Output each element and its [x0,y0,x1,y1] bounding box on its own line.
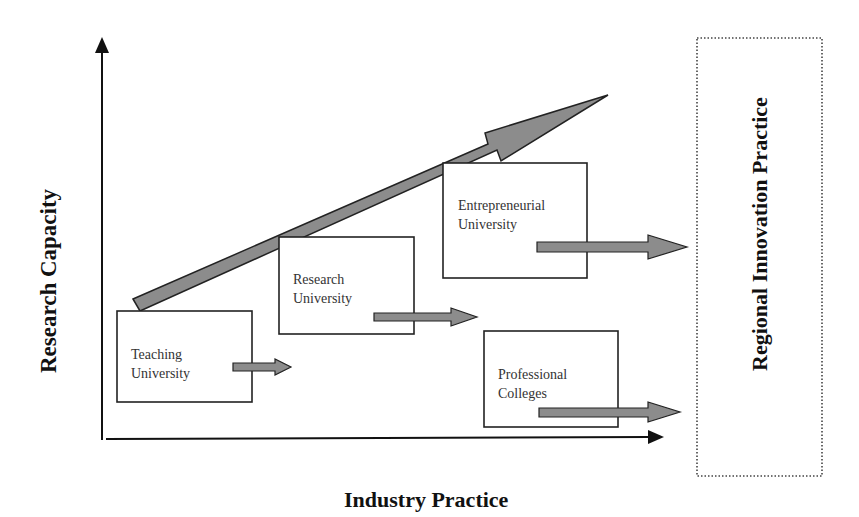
regional-innovation-label: Regional Innovation Practice [747,84,773,384]
entrepreneurial-university-label: Entrepreneurial University [458,196,545,234]
y-axis [95,37,109,440]
x-axis-arrowhead-icon [648,430,664,444]
y-axis-label: Research Capacity [36,181,62,381]
teaching-university-label: Teaching University [131,345,190,383]
y-axis-arrowhead-icon [95,37,109,53]
diagram-canvas [0,0,859,517]
research-university-label: Research University [293,270,352,308]
x-axis-label: Industry Practice [344,487,508,513]
professional-colleges-label: Professional Colleges [498,365,567,403]
x-axis [106,430,664,444]
